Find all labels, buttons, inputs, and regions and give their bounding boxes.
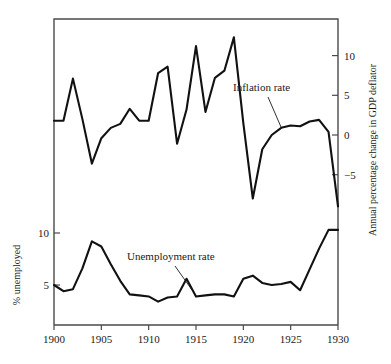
right-tick-label: −5	[344, 169, 356, 181]
x-tick-label: 1920	[232, 333, 255, 345]
x-tick-label: 1905	[90, 333, 113, 345]
unemployment-rate-label: Unemployment rate	[127, 250, 215, 262]
x-tick-label: 1900	[43, 333, 66, 345]
x-tick-label: 1915	[185, 333, 208, 345]
figure-container: 1900190519101915192019251930 105 1050−5 …	[0, 0, 391, 364]
x-tick-label: 1930	[327, 333, 350, 345]
right-tick-label: 0	[344, 129, 350, 141]
chart-canvas: 1900190519101915192019251930 105 1050−5 …	[0, 0, 391, 364]
left-tick-label: 5	[44, 279, 50, 291]
left-tick-label: 10	[38, 227, 50, 239]
right-tick-label: 10	[344, 50, 356, 62]
right-axis-title: Annual percentage change in GDP deflator	[367, 63, 378, 236]
right-tick-label: 5	[344, 89, 350, 101]
left-axis-title: % unemployed	[11, 245, 22, 305]
inflation-rate-label: Inflation rate	[233, 81, 290, 93]
x-tick-label: 1925	[280, 333, 303, 345]
x-tick-label: 1910	[138, 333, 161, 345]
